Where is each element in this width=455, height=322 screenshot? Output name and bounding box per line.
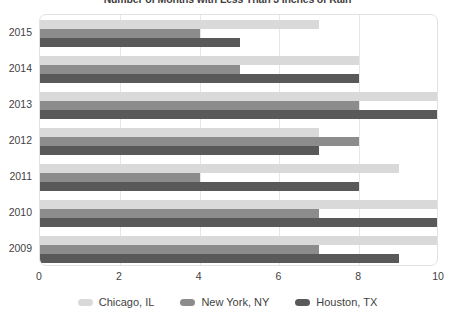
legend-swatch-icon xyxy=(295,299,310,306)
bar xyxy=(40,56,359,65)
plot-area xyxy=(39,14,438,266)
bar xyxy=(40,146,319,155)
bar xyxy=(40,29,200,38)
x-tick-label: 0 xyxy=(36,269,42,283)
y-tick-label: 2010 xyxy=(9,206,32,218)
bar xyxy=(40,92,438,101)
y-tick-label: 2015 xyxy=(9,26,32,38)
legend-swatch-icon xyxy=(180,299,195,306)
chart-title: Number of Months with Less Than 3 Inches… xyxy=(0,0,455,6)
x-tick-label: 4 xyxy=(196,269,202,283)
bar xyxy=(40,200,438,209)
bar xyxy=(40,164,399,173)
legend-item[interactable]: New York, NY xyxy=(180,296,269,309)
bar xyxy=(40,20,319,29)
legend-label: New York, NY xyxy=(201,296,269,309)
x-axis-labels: 0246810 xyxy=(39,269,438,285)
legend-label: Chicago, IL xyxy=(99,296,155,309)
legend-swatch-icon xyxy=(78,299,93,306)
bar xyxy=(40,38,240,47)
x-tick-label: 6 xyxy=(275,269,281,283)
bar xyxy=(40,110,438,119)
bar xyxy=(40,254,399,263)
chart-legend: Chicago, ILNew York, NYHouston, TX xyxy=(0,296,455,309)
bar xyxy=(40,137,359,146)
y-tick-label: 2011 xyxy=(9,170,32,182)
legend-item[interactable]: Chicago, IL xyxy=(78,296,155,309)
gridline-x-8 xyxy=(359,15,360,265)
legend-label: Houston, TX xyxy=(316,296,377,309)
x-tick-label: 2 xyxy=(116,269,122,283)
bar xyxy=(40,218,438,227)
y-axis-labels: 2015201420132012201120102009 xyxy=(0,14,35,266)
y-tick-label: 2014 xyxy=(9,62,32,74)
y-tick-label: 2012 xyxy=(9,134,32,146)
bar xyxy=(40,236,438,245)
legend-item[interactable]: Houston, TX xyxy=(295,296,377,309)
bar xyxy=(40,101,359,110)
bar xyxy=(40,209,319,218)
plot-wrap xyxy=(39,14,438,266)
x-tick-label: 8 xyxy=(355,269,361,283)
bar xyxy=(40,74,359,83)
bar xyxy=(40,173,200,182)
chart-container: Number of Months with Less Than 3 Inches… xyxy=(0,0,455,322)
y-tick-label: 2013 xyxy=(9,98,32,110)
x-tick-label: 10 xyxy=(432,269,444,283)
bar xyxy=(40,128,319,137)
bar xyxy=(40,182,359,191)
bar xyxy=(40,65,240,74)
y-tick-label: 2009 xyxy=(9,242,32,254)
bar xyxy=(40,245,319,254)
